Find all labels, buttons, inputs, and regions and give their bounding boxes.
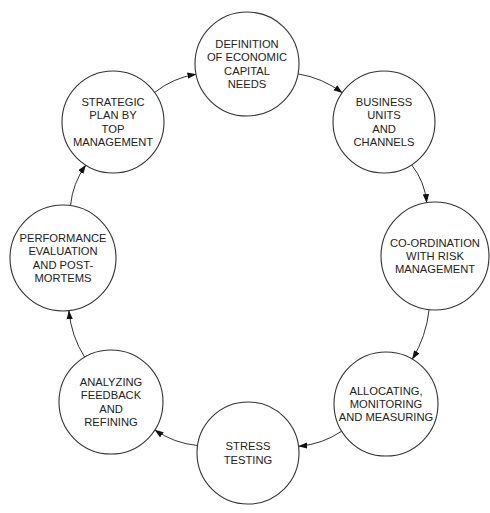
node-label-line: MONITORING — [350, 398, 423, 410]
node-label-line: EVALUATION — [28, 245, 97, 257]
node-label-line: MORTEMS — [35, 272, 92, 284]
node-performance: PERFORMANCEEVALUATIONAND POST-MORTEMS — [10, 205, 116, 311]
arrow-allocating-to-stress-testing — [299, 431, 342, 446]
node-label-line: MANAGEMENT — [73, 136, 153, 148]
arrow-strategic-plan-to-definition — [155, 74, 196, 92]
node-strategic-plan: STRATEGICPLAN BYTOPMANAGEMENT — [62, 71, 164, 173]
node-label-line: WITH RISK — [406, 250, 464, 262]
node-label-line: CHANNELS — [354, 136, 415, 148]
arrow-business-units-to-coordination — [412, 165, 427, 203]
node-definition: DEFINITIONOF ECONOMICCAPITALNEEDS — [195, 12, 299, 116]
node-label-line: MANAGEMENT — [395, 263, 475, 275]
arrow-definition-to-business-units — [298, 74, 342, 93]
node-label-line: FEEDBACK — [81, 389, 142, 401]
node-label-line: ANALYZING — [80, 376, 143, 388]
node-label-line: AND MEASURING — [339, 411, 433, 423]
node-coordination: CO-ORDINATIONWITH RISKMANAGEMENT — [381, 202, 489, 310]
node-label-line: CO-ORDINATION — [390, 237, 480, 249]
arrow-analyzing-to-performance — [69, 311, 85, 358]
node-label-line: STRATEGIC — [81, 96, 144, 108]
node-label-line: UNITS — [367, 109, 401, 121]
node-label-line: TESTING — [224, 454, 272, 466]
arrow-coordination-to-allocating — [412, 310, 429, 359]
arrow-stress-testing-to-analyzing — [155, 430, 198, 446]
node-label-line: ALLOCATING, — [349, 385, 422, 397]
node-allocating: ALLOCATING,MONITORINGAND MEASURING — [334, 352, 438, 456]
node-stress-testing: STRESSTESTING — [197, 402, 299, 504]
nodes-layer: DEFINITIONOF ECONOMICCAPITALNEEDSBUSINES… — [10, 12, 489, 504]
node-label-line: STRESS — [226, 440, 271, 452]
node-label-line: AND — [99, 403, 123, 415]
node-analyzing: ANALYZINGFEEDBACKANDREFINING — [59, 350, 163, 454]
node-label-line: PERFORMANCE — [19, 232, 106, 244]
node-label-line: NEEDS — [228, 78, 267, 90]
node-label-line: DEFINITION — [215, 38, 278, 50]
node-label-line: AND POST- — [33, 259, 94, 271]
node-label-line: TOP — [102, 123, 125, 135]
node-label-line: CAPITAL — [224, 65, 270, 77]
arrow-performance-to-strategic-plan — [71, 165, 86, 205]
node-label-line: REFINING — [84, 416, 137, 428]
cycle-diagram: DEFINITIONOF ECONOMICCAPITALNEEDSBUSINES… — [0, 0, 490, 513]
node-label-line: BUSINESS — [356, 96, 413, 108]
node-business-units: BUSINESSUNITSANDCHANNELS — [333, 71, 435, 173]
node-label-line: PLAN BY — [89, 109, 137, 121]
node-label-line: AND — [372, 123, 396, 135]
node-label-line: OF ECONOMIC — [207, 51, 287, 63]
